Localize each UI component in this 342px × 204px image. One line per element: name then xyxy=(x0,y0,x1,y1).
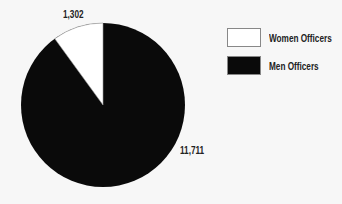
pie-chart xyxy=(0,0,342,204)
men-value-label: 11,711 xyxy=(180,145,204,156)
legend-swatch-men xyxy=(227,56,261,75)
women-value-label: 1,302 xyxy=(63,9,84,20)
legend-label-men: Men Officers xyxy=(269,61,319,72)
legend-label-women: Women Officers xyxy=(269,33,332,44)
legend-swatch-women xyxy=(227,28,261,47)
